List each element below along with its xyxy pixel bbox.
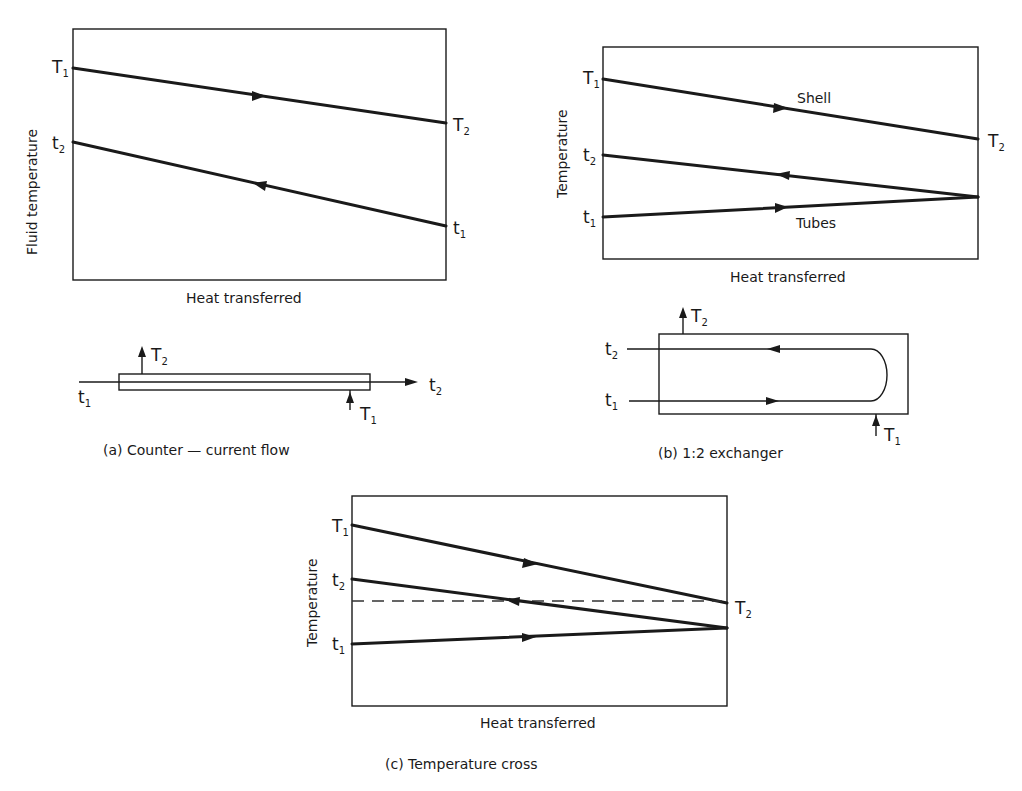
arrow-right-icon bbox=[773, 103, 788, 113]
figure-canvas: T1 t2 T2 t1 Fluid temperature Heat trans… bbox=[0, 0, 1022, 791]
schematic-label-T2: T2 bbox=[690, 306, 708, 328]
x-axis-label: Heat transferred bbox=[480, 715, 596, 731]
figure-b-schematic: T2 t2 t1 T1 (b) 1:2 exchanger bbox=[605, 306, 908, 461]
schematic-label-t2: t2 bbox=[605, 339, 618, 361]
label-t1: t1 bbox=[332, 634, 345, 656]
arrow-right-icon bbox=[766, 397, 779, 405]
schematic-label-T1: T1 bbox=[883, 425, 901, 447]
label-T1: T1 bbox=[331, 516, 349, 538]
label-t1: t1 bbox=[453, 218, 466, 240]
tube-inlet-line bbox=[352, 628, 727, 644]
schematic-label-t1: t1 bbox=[78, 387, 91, 409]
arrow-up-icon bbox=[872, 415, 880, 426]
label-T1: T1 bbox=[51, 57, 69, 79]
figure-c-plot: T1 t2 t1 T2 Temperature Heat transferred… bbox=[304, 496, 752, 772]
figure-c-caption: (c) Temperature cross bbox=[385, 756, 538, 772]
label-T1: T1 bbox=[582, 68, 600, 90]
arrow-up-icon bbox=[679, 307, 687, 318]
label-t1: t1 bbox=[583, 207, 596, 229]
schematic-label-T1: T1 bbox=[359, 404, 377, 426]
schematic-label-t2: t2 bbox=[429, 375, 442, 397]
arrow-right-icon bbox=[252, 91, 266, 101]
arrow-right-icon bbox=[405, 378, 418, 386]
y-axis-label: Temperature bbox=[304, 558, 320, 648]
tube-return-line bbox=[603, 155, 978, 197]
shell-line bbox=[352, 525, 727, 603]
exchanger-body bbox=[659, 334, 908, 414]
schematic-label-T2: T2 bbox=[150, 345, 168, 367]
u-tube bbox=[627, 349, 887, 401]
arrow-right-icon bbox=[522, 633, 536, 642]
label-t2: t2 bbox=[52, 133, 65, 155]
label-T2: T2 bbox=[987, 131, 1005, 153]
x-axis-label: Heat transferred bbox=[186, 290, 302, 306]
label-t2: t2 bbox=[583, 145, 596, 167]
label-t2: t2 bbox=[332, 570, 345, 592]
label-T2: T2 bbox=[452, 115, 470, 137]
tube-inlet-line bbox=[603, 197, 978, 217]
y-axis-label: Temperature bbox=[554, 109, 570, 199]
figure-b-caption: (b) 1:2 exchanger bbox=[658, 445, 783, 461]
figure-a-plot: T1 t2 T2 t1 Fluid temperature Heat trans… bbox=[24, 29, 470, 306]
x-axis-label: Heat transferred bbox=[730, 269, 846, 285]
arrow-left-icon bbox=[767, 345, 780, 353]
schematic-label-t1: t1 bbox=[605, 390, 618, 412]
y-axis-label: Fluid temperature bbox=[24, 129, 40, 255]
label-T2: T2 bbox=[734, 598, 752, 620]
arrow-right-icon bbox=[522, 558, 538, 568]
shell-line bbox=[603, 79, 978, 139]
figure-b-plot: Shell Tubes T1 t2 t1 T2 Temperature Heat… bbox=[554, 47, 1005, 285]
arrow-up-icon bbox=[346, 392, 354, 403]
tube-return-line bbox=[352, 579, 727, 628]
figure-a-caption: (a) Counter — current flow bbox=[103, 442, 290, 458]
tubes-label: Tubes bbox=[795, 215, 836, 231]
arrow-up-icon bbox=[138, 346, 146, 357]
plot-frame bbox=[603, 47, 978, 259]
shell-label: Shell bbox=[797, 90, 831, 106]
figure-a-schematic: T2 t1 t2 T1 (a) Counter — current flow bbox=[78, 345, 442, 458]
